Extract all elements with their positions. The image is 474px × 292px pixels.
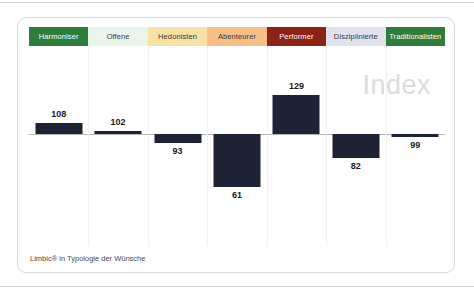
- bar-value-label: 129: [289, 81, 304, 91]
- bottom-divider: [0, 286, 474, 287]
- bar[interactable]: [95, 131, 142, 134]
- bar-value-label: 99: [410, 140, 420, 150]
- bar[interactable]: [392, 134, 439, 137]
- bar-value-label: 82: [351, 161, 361, 171]
- bar-value-label: 108: [51, 109, 66, 119]
- category-chip[interactable]: Harmoniser: [29, 27, 88, 46]
- bar[interactable]: [154, 134, 201, 143]
- bar[interactable]: [213, 134, 260, 187]
- category-chip-label: Harmoniser: [39, 32, 79, 41]
- chart-plot-area: Index 10810293611298299: [29, 46, 445, 246]
- bar-value-label: 102: [111, 117, 126, 127]
- category-chip-label: Traditionalisten: [389, 32, 441, 41]
- top-divider: [0, 2, 474, 3]
- category-chip[interactable]: Abenteurer: [207, 27, 266, 46]
- category-chip[interactable]: Offene: [88, 27, 147, 46]
- category-chip[interactable]: Performer: [267, 27, 326, 46]
- chart-card: HarmoniserOffeneHedonistenAbenteurerPerf…: [17, 17, 455, 273]
- bar[interactable]: [35, 123, 82, 134]
- bar-group: 108: [29, 46, 88, 246]
- category-header-band: HarmoniserOffeneHedonistenAbenteurerPerf…: [29, 27, 445, 46]
- bar-group: 129: [267, 46, 326, 246]
- bar-value-label: 61: [232, 190, 242, 200]
- bar-group: 93: [148, 46, 207, 246]
- category-chip[interactable]: Traditionalisten: [386, 27, 445, 46]
- bar[interactable]: [332, 134, 379, 158]
- bar-group: 82: [326, 46, 385, 246]
- category-chip-label: Performer: [279, 32, 313, 41]
- category-chip-label: Abenteurer: [218, 32, 256, 41]
- category-chip-label: Disziplinierte: [334, 32, 378, 41]
- bar[interactable]: [273, 95, 320, 134]
- chart-caption: Limbic® in Typologie der Wünsche: [30, 254, 145, 263]
- category-chip[interactable]: Hedonisten: [148, 27, 207, 46]
- category-chip-label: Hedonisten: [158, 32, 197, 41]
- bar-value-label: 93: [173, 146, 183, 156]
- bar-group: 102: [88, 46, 147, 246]
- category-chip[interactable]: Disziplinierte: [326, 27, 385, 46]
- category-chip-label: Offene: [107, 32, 130, 41]
- screenshot-canvas: HarmoniserOffeneHedonistenAbenteurerPerf…: [0, 0, 474, 292]
- bar-group: 61: [207, 46, 266, 246]
- bar-group: 99: [386, 46, 445, 246]
